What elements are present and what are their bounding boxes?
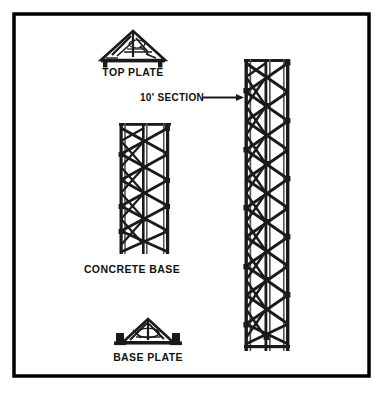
- diagram-canvas: TOP PLATE 10' SECTION: [0, 0, 384, 395]
- concrete-base-label: CONCRETE BASE: [84, 263, 180, 275]
- section-callout-label: 10' SECTION: [140, 92, 204, 103]
- top-plate-icon: [101, 31, 165, 68]
- cb-leg-right: [166, 123, 169, 254]
- base-plate-label: BASE PLATE: [113, 351, 183, 363]
- top-plate-label: TOP PLATE: [102, 66, 163, 78]
- base-plate-icon: [114, 319, 182, 345]
- st-leg-right: [286, 59, 289, 351]
- page-border: [14, 14, 369, 376]
- callout-arrow-head: [236, 94, 244, 101]
- tower-assembly-diagram: TOP PLATE 10' SECTION: [0, 0, 384, 395]
- ten-foot-section-tower: [243, 59, 290, 351]
- section-callout: 10' SECTION: [140, 92, 244, 103]
- concrete-base-tower: [119, 123, 171, 254]
- st-bottom-bar: [244, 345, 290, 348]
